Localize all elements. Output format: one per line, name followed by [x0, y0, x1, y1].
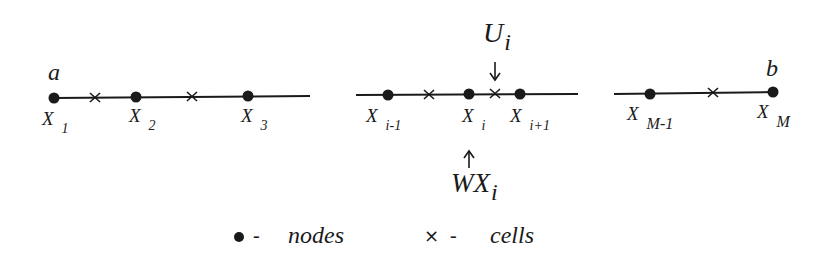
legend-nodes-label: nodes: [288, 222, 344, 248]
segment-middle: Xi-1 Xi Xi+1 Ui WXi: [356, 17, 578, 205]
node-label-xm-1: XM-1: [626, 103, 673, 132]
arrow-down-icon: [490, 62, 500, 80]
node-dot-x1: [49, 93, 60, 104]
grid-diagram: a X1 X2 X3 Xi-1 Xi Xi+1 Ui: [0, 0, 825, 258]
node-label-xm: XM: [756, 101, 792, 130]
node-dot-xi-1: [383, 90, 394, 101]
node-label-x1: X1: [41, 108, 69, 136]
legend-cells-dash: -: [450, 224, 457, 246]
legend-cell-cross-icon: ×: [424, 225, 439, 246]
node-dot-x3: [243, 91, 254, 102]
annotation-u-i: Ui: [483, 17, 511, 55]
endpoint-label-a: a: [48, 59, 60, 85]
axis-line-right: [614, 92, 775, 94]
node-dot-xm: [768, 87, 779, 98]
annotation-wx-i: WXi: [451, 168, 498, 205]
node-label-x2: X2: [128, 105, 156, 133]
legend-cells-label: cells: [490, 222, 534, 248]
node-dot-x2: [131, 92, 142, 103]
node-label-xi+1: Xi+1: [509, 105, 550, 133]
node-dot-xm-1: [645, 89, 656, 100]
endpoint-label-b: b: [766, 55, 778, 81]
segment-left: a X1 X2 X3: [41, 59, 310, 136]
axis-line-left: [53, 96, 310, 98]
legend-nodes-dash: -: [253, 224, 260, 246]
arrow-up-icon: [464, 151, 474, 168]
legend: - nodes × - cells: [234, 222, 534, 248]
node-label-x3: X3: [240, 105, 268, 133]
segment-right: b XM-1 XM: [614, 55, 792, 132]
node-label-xi: Xi: [461, 105, 486, 133]
node-dot-xi: [464, 89, 475, 100]
node-dot-xi+1: [515, 89, 526, 100]
node-label-xi-1: Xi-1: [365, 105, 401, 133]
legend-node-dot-icon: [234, 232, 244, 242]
